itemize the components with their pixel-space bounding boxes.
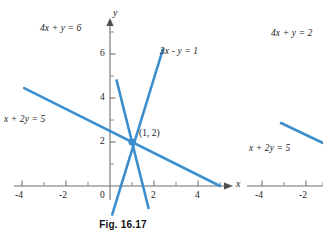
label-line-x-plus-2y-5: x + 2y = 5 <box>4 114 45 124</box>
figure-caption: Fig. 16.17 <box>0 219 246 230</box>
y-tick-label-2: 2 <box>100 136 105 146</box>
right-line-x-plus-2y-5 <box>281 123 323 143</box>
right-label-line-4x-plus-y-2: 4x + y = 2 <box>271 28 312 38</box>
right-x-tick-label--2: -2 <box>299 190 307 200</box>
intersection-point <box>128 138 135 145</box>
figure-16-17: 4x + y = 6 3x - y = 1 x + 2y = 5 (1, 2) … <box>0 0 323 239</box>
label-line-4x-plus-y-6: 4x + y = 6 <box>40 23 81 33</box>
right-label-line-x-plus-2y-5: x + 2y = 5 <box>249 143 290 153</box>
y-axis-name: y <box>113 7 117 18</box>
right-x-tick-label--4: -4 <box>255 190 263 200</box>
y-tick-label-4: 4 <box>100 92 105 102</box>
left-y-axis <box>106 18 115 200</box>
y-tick-label-6: 6 <box>100 48 105 58</box>
x-tick-label-0: 0 <box>100 190 105 200</box>
right-x-axis <box>247 181 323 187</box>
label-intersection-point: (1, 2) <box>139 128 160 138</box>
x-tick-label-4: 4 <box>195 190 200 200</box>
x-tick-label--2: -2 <box>59 190 67 200</box>
x-axis-name: x <box>236 178 240 189</box>
x-tick-label--4: -4 <box>15 190 23 200</box>
x-tick-label-2: 2 <box>151 190 156 200</box>
label-line-3x-minus-y-1: 3x - y = 1 <box>160 46 198 56</box>
